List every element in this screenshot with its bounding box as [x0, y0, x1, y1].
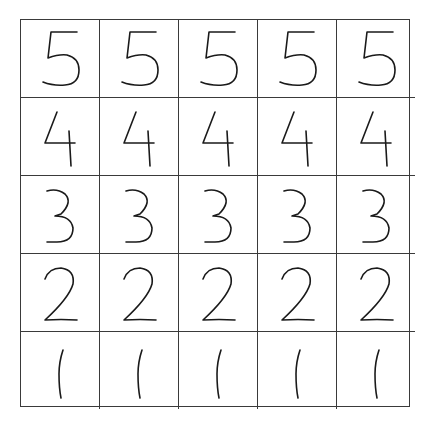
digit-4-glyph — [100, 98, 178, 175]
digit-grid: 5555544444333332222211111 — [20, 19, 410, 407]
grid-cell: 3 — [100, 176, 179, 254]
grid-cell: 5 — [100, 20, 179, 98]
grid-cell: 2 — [21, 254, 100, 332]
digit-3-glyph — [337, 176, 415, 253]
digit-1-glyph — [179, 332, 257, 409]
grid-cell: 1 — [21, 332, 100, 409]
digit-3-glyph — [258, 176, 336, 253]
digit-2-glyph — [258, 254, 336, 331]
grid-cell: 4 — [100, 98, 179, 176]
grid-cell: 4 — [179, 98, 258, 176]
grid-cell: 4 — [337, 98, 415, 176]
digit-2-glyph — [179, 254, 257, 331]
digit-5-glyph — [258, 20, 336, 97]
digit-2-glyph — [337, 254, 415, 331]
grid-cell: 5 — [179, 20, 258, 98]
digit-5-glyph — [337, 20, 415, 97]
digit-5-glyph — [21, 20, 99, 97]
digit-3-glyph — [179, 176, 257, 253]
digit-4-glyph — [21, 98, 99, 175]
grid-cell: 1 — [100, 332, 179, 409]
grid-cell: 2 — [258, 254, 337, 332]
grid-cell: 2 — [100, 254, 179, 332]
grid-cell: 5 — [337, 20, 415, 98]
digit-5-glyph — [179, 20, 257, 97]
digit-3-glyph — [100, 176, 178, 253]
grid-cell: 1 — [337, 332, 415, 409]
digit-1-glyph — [21, 332, 99, 409]
digit-2-glyph — [100, 254, 178, 331]
grid-cell: 3 — [337, 176, 415, 254]
grid-cell: 2 — [179, 254, 258, 332]
digit-4-glyph — [258, 98, 336, 175]
grid-cell: 3 — [258, 176, 337, 254]
grid-cell: 3 — [179, 176, 258, 254]
grid-cell: 1 — [179, 332, 258, 409]
grid-cell: 3 — [21, 176, 100, 254]
digit-4-glyph — [179, 98, 257, 175]
digit-2-glyph — [21, 254, 99, 331]
digit-1-glyph — [337, 332, 415, 409]
grid-cell: 1 — [258, 332, 337, 409]
grid-cell: 5 — [258, 20, 337, 98]
grid-cell: 4 — [21, 98, 100, 176]
digit-4-glyph — [337, 98, 415, 175]
digit-1-glyph — [100, 332, 178, 409]
digit-3-glyph — [21, 176, 99, 253]
digit-5-glyph — [100, 20, 178, 97]
grid-cell: 5 — [21, 20, 100, 98]
grid-cell: 2 — [337, 254, 415, 332]
grid-cell: 4 — [258, 98, 337, 176]
digit-1-glyph — [258, 332, 336, 409]
